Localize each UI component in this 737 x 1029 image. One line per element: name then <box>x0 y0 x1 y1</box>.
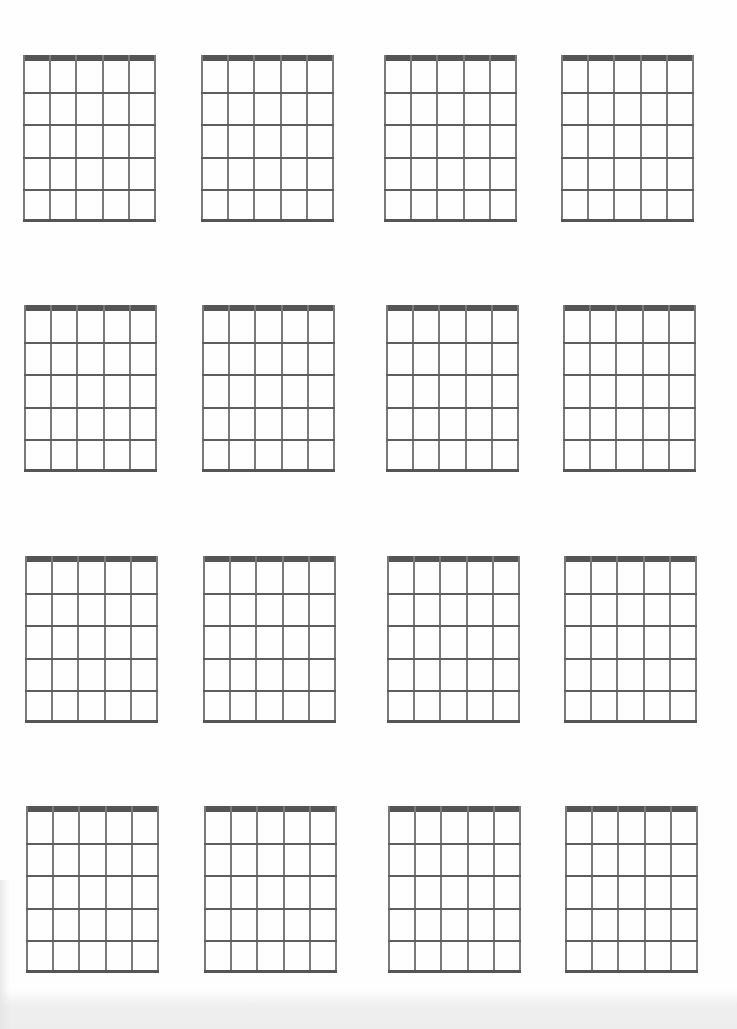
string-line <box>307 305 309 472</box>
string-line <box>695 556 697 723</box>
fret-line <box>386 407 519 409</box>
string-line <box>254 305 256 472</box>
fret-line <box>26 843 159 845</box>
fret-line <box>24 342 157 344</box>
string-line <box>306 55 308 222</box>
string-line <box>201 55 203 222</box>
chord-diagram-r2-c4 <box>563 305 696 472</box>
fret-line <box>25 658 158 660</box>
string-line <box>103 305 105 472</box>
string-line <box>281 305 283 472</box>
string-line <box>282 556 284 723</box>
fret-line <box>26 908 159 910</box>
fret-line <box>384 92 517 94</box>
string-line <box>436 55 438 222</box>
fret-line <box>387 720 520 723</box>
fret-line <box>561 92 694 94</box>
string-line <box>668 305 670 472</box>
string-line <box>131 806 133 973</box>
string-line <box>49 55 51 222</box>
string-line <box>76 305 78 472</box>
string-line <box>51 556 53 723</box>
string-line <box>489 55 491 222</box>
string-line <box>465 305 467 472</box>
fret-line <box>203 625 336 627</box>
fret-line <box>23 189 156 191</box>
nut <box>201 55 334 61</box>
fret-line <box>563 342 696 344</box>
string-line <box>518 556 520 723</box>
fret-line <box>387 690 520 692</box>
fret-line <box>563 469 696 472</box>
string-line <box>104 556 106 723</box>
fret-line <box>388 908 521 910</box>
chord-diagram-r3-c2 <box>203 556 336 723</box>
string-line <box>229 556 231 723</box>
string-line <box>105 806 107 973</box>
string-line <box>26 806 28 973</box>
string-line <box>438 305 440 472</box>
fret-line <box>564 720 697 723</box>
string-line <box>23 55 25 222</box>
nut <box>203 556 336 562</box>
fret-line <box>388 875 521 877</box>
string-line <box>440 806 442 973</box>
string-line <box>253 55 255 222</box>
fret-line <box>561 219 694 222</box>
fret-line <box>202 374 335 376</box>
fret-line <box>384 219 517 222</box>
chord-diagram-r4-c3 <box>388 806 521 973</box>
nut <box>387 556 520 562</box>
string-line <box>280 55 282 222</box>
string-line <box>644 806 646 973</box>
string-line <box>230 806 232 973</box>
string-line <box>414 806 416 973</box>
string-line <box>102 55 104 222</box>
nut <box>565 806 698 812</box>
string-line <box>492 556 494 723</box>
chord-diagram-r2-c3 <box>386 305 519 472</box>
fret-line <box>24 374 157 376</box>
fret-line <box>564 690 697 692</box>
nut <box>26 806 159 812</box>
string-line <box>412 305 414 472</box>
string-line <box>565 806 567 973</box>
string-line <box>130 556 132 723</box>
fret-line <box>563 374 696 376</box>
fret-line <box>23 92 156 94</box>
string-line <box>50 305 52 472</box>
string-line <box>333 305 335 472</box>
string-line <box>587 55 589 222</box>
fret-line <box>388 970 521 973</box>
string-line <box>387 556 389 723</box>
string-line <box>466 556 468 723</box>
chord-diagram-r2-c1 <box>24 305 157 472</box>
fret-line <box>561 124 694 126</box>
chord-diagram-r1-c1 <box>23 55 156 222</box>
nut <box>561 55 694 61</box>
fret-line <box>203 690 336 692</box>
fret-line <box>386 469 519 472</box>
fret-line <box>24 407 157 409</box>
string-line <box>309 806 311 973</box>
string-line <box>515 55 517 222</box>
string-line <box>78 806 80 973</box>
fret-line <box>564 625 697 627</box>
string-line <box>590 556 592 723</box>
fret-line <box>565 843 698 845</box>
string-line <box>155 305 157 472</box>
fret-line <box>384 189 517 191</box>
fret-line <box>386 342 519 344</box>
string-line <box>203 556 205 723</box>
page-shadow-left <box>0 880 10 1029</box>
fret-line <box>386 374 519 376</box>
nut <box>388 806 521 812</box>
fret-line <box>202 439 335 441</box>
fret-line <box>24 439 157 441</box>
string-line <box>128 55 130 222</box>
string-line <box>589 305 591 472</box>
fret-line <box>24 469 157 472</box>
string-line <box>696 806 698 973</box>
string-line <box>156 556 158 723</box>
fret-line <box>565 940 698 942</box>
